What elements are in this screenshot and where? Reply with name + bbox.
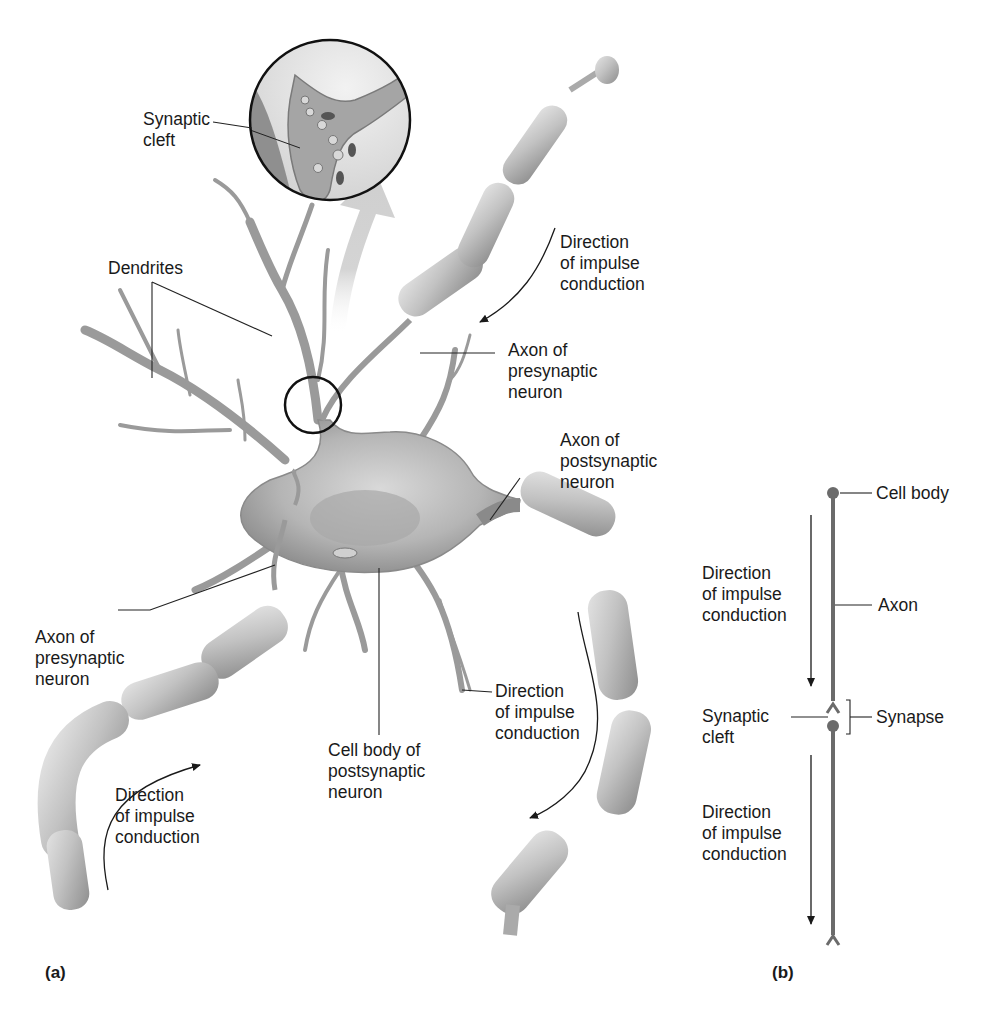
label-axon-postsynaptic: Axon of postsynaptic neuron xyxy=(560,430,657,493)
label-direction-lower: Direction of impulse conduction xyxy=(702,802,787,865)
axon-terminal xyxy=(827,704,839,713)
label-cell-body: Cell body xyxy=(876,483,949,504)
panel-a-label: (a) xyxy=(45,963,66,983)
panel-b-schematic xyxy=(791,487,872,945)
label-dendrites: Dendrites xyxy=(108,258,183,279)
label-direction-upper: Direction of impulse conduction xyxy=(702,563,787,626)
nucleus xyxy=(310,490,420,546)
label-synapse: Synapse xyxy=(876,707,944,728)
label-synaptic-cleft: Synaptic cleft xyxy=(702,706,769,748)
label-cell-body-postsynaptic: Cell body of postsynaptic neuron xyxy=(328,740,425,803)
label-axon: Axon xyxy=(878,595,918,616)
label-direction-top: Direction of impulse conduction xyxy=(560,232,645,295)
label-axon-presynaptic-top: Axon of presynaptic neuron xyxy=(508,340,598,403)
neuron-synapse-figure: Synaptic cleft Dendrites Direction of im… xyxy=(0,0,1001,1009)
panel-b-label: (b) xyxy=(772,963,794,983)
label-direction-right: Direction of impulse conduction xyxy=(495,681,580,744)
synapse-magnified-view xyxy=(250,40,440,210)
label-synaptic-cleft-zoom: Synaptic cleft xyxy=(143,109,210,151)
leader-lines-a xyxy=(118,122,520,735)
figure-illustration xyxy=(0,0,1001,1009)
label-direction-bottom-left: Direction of impulse conduction xyxy=(115,785,200,848)
label-axon-presynaptic-left: Axon of presynaptic neuron xyxy=(35,627,125,690)
